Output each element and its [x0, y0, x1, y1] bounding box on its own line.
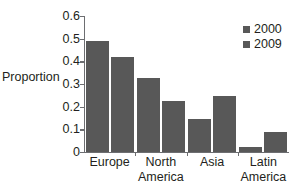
category-label-line: Asia: [187, 155, 238, 170]
category-label-line: America: [238, 170, 289, 185]
bar: [239, 147, 262, 152]
category-label-line: America: [135, 170, 186, 185]
legend-swatch-icon: [243, 26, 250, 33]
bar: [162, 101, 185, 152]
bar: [188, 119, 211, 152]
y-axis-tick-label: 0.1: [54, 123, 80, 135]
bar: [264, 132, 287, 152]
y-axis-tick-mark: [80, 61, 84, 62]
bar: [137, 78, 160, 152]
x-axis-category-label: Asia: [187, 155, 238, 170]
x-axis-category-label: LatinAmerica: [238, 155, 289, 185]
y-axis-tick-labels: 00.10.20.30.40.50.6: [54, 0, 80, 189]
legend-item: 2009: [243, 37, 303, 51]
category-label-line: Latin: [238, 155, 289, 170]
legend-label: 2009: [254, 38, 282, 51]
legend-swatch-icon: [243, 41, 250, 48]
y-axis-tick-label: 0: [54, 146, 80, 158]
bar: [213, 96, 236, 152]
y-axis-tick-label: 0.2: [54, 101, 80, 113]
bar-chart: Proportion 00.10.20.30.40.50.6 EuropeNor…: [0, 0, 306, 189]
legend-label: 2000: [254, 23, 282, 36]
y-axis-tick-mark: [80, 107, 84, 108]
bar: [86, 41, 109, 152]
chart-legend: 20002009: [243, 22, 303, 52]
x-axis-category-label: Europe: [84, 155, 135, 170]
y-axis-tick-label: 0.4: [54, 55, 80, 67]
y-axis-tick-mark: [80, 39, 84, 40]
y-axis-tick-mark: [80, 152, 84, 153]
y-axis-tick-label: 0.3: [54, 78, 80, 90]
y-axis-tick-mark: [80, 84, 84, 85]
bar: [111, 57, 134, 152]
y-axis-tick-label: 0.6: [54, 10, 80, 22]
legend-item: 2000: [243, 22, 303, 36]
category-label-line: North: [135, 155, 186, 170]
y-axis-tick-label: 0.5: [54, 33, 80, 45]
y-axis-tick-mark: [80, 16, 84, 17]
x-axis-category-label: NorthAmerica: [135, 155, 186, 185]
category-label-line: Europe: [84, 155, 135, 170]
y-axis-tick-mark: [80, 129, 84, 130]
